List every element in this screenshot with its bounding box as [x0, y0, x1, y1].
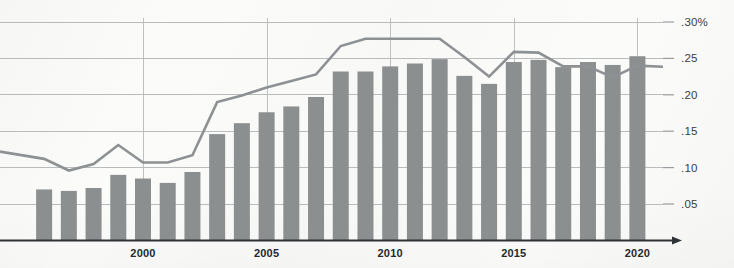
bar-1998 — [86, 188, 102, 240]
bar-2017 — [555, 67, 571, 240]
y-tick-label-p10: .10 — [681, 162, 698, 174]
x-tick-label-2020: 2020 — [625, 247, 650, 259]
bar-2008 — [333, 72, 349, 241]
bar-2004 — [234, 123, 250, 240]
bar-2015 — [506, 62, 522, 240]
bar-2006 — [283, 106, 299, 240]
bar-1996 — [36, 189, 52, 240]
bar-2005 — [259, 112, 275, 240]
bar-2002 — [184, 172, 200, 240]
bar-2012 — [432, 59, 448, 240]
bar-1997 — [61, 191, 77, 240]
y-tick-label-p25: .25 — [681, 52, 698, 64]
x-tick-label-2000: 2000 — [130, 247, 155, 259]
x-axis-tick-labels-group: 20002005201020152020 — [130, 247, 650, 259]
bar-2001 — [160, 183, 176, 240]
bar-2007 — [308, 97, 324, 240]
bar-2003 — [209, 134, 225, 240]
x-tick-label-2015: 2015 — [501, 247, 526, 259]
bar-2016 — [531, 60, 547, 240]
bar-2009 — [357, 72, 373, 241]
bar-2019 — [605, 65, 621, 240]
chart-plot-area: .05.10.15.20.25.30% 20002005201020152020 — [0, 0, 734, 268]
bar-2018 — [580, 62, 596, 240]
x-tick-label-2005: 2005 — [254, 247, 279, 259]
bar-2011 — [407, 64, 423, 241]
bar-2010 — [382, 66, 398, 240]
y-tick-label-p05: .05 — [681, 198, 698, 210]
x-tick-label-2010: 2010 — [378, 247, 403, 259]
y-tick-label-p30pct: .30% — [681, 16, 708, 28]
chart-container: .05.10.15.20.25.30% 20002005201020152020 — [0, 0, 734, 268]
y-tick-label-p20: .20 — [681, 89, 698, 101]
y-axis-tick-labels-group: .05.10.15.20.25.30% — [681, 16, 708, 210]
y-tick-label-p15: .15 — [681, 125, 698, 137]
bars-group — [36, 56, 645, 240]
bar-2000 — [135, 179, 151, 240]
bar-1999 — [110, 175, 126, 240]
x-axis-arrow-icon — [672, 236, 682, 244]
bar-2014 — [481, 84, 497, 240]
bar-2020 — [629, 56, 645, 240]
bar-2013 — [456, 76, 472, 240]
